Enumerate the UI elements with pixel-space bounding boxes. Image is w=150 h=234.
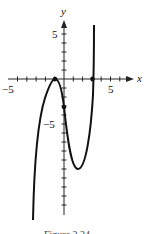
x-axis-arrow-icon	[126, 76, 134, 82]
x-tick-label-5: 5	[108, 83, 114, 95]
y-axis-label: y	[60, 5, 66, 17]
y-tick-label-5: 5	[52, 28, 58, 40]
x-tick-label-neg5: −5	[2, 83, 14, 95]
graph-figure: x y −5 5 5 −5 Figure 3.34	[0, 0, 150, 234]
point-local-max	[53, 77, 58, 82]
point-x-intercept	[90, 77, 95, 82]
x-axis-label: x	[136, 72, 142, 84]
x-axis	[8, 76, 134, 82]
y-tick-label-neg5: −5	[43, 118, 55, 130]
point-y-intercept	[62, 105, 67, 110]
y-axis-arrow-icon	[61, 20, 67, 28]
figure-caption: Figure 3.34	[44, 229, 90, 234]
